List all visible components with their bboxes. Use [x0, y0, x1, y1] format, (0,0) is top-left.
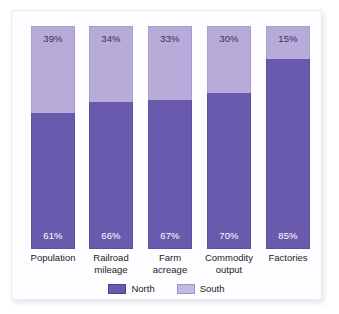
legend-item-north[interactable]: North	[108, 284, 154, 294]
bar-value-south: 33%	[160, 34, 179, 44]
bar-segment-south[interactable]: 15%	[266, 26, 310, 59]
bar-segment-north[interactable]: 70%	[207, 93, 251, 249]
bar-segment-south[interactable]: 30%	[207, 26, 251, 93]
bar-value-south: 15%	[278, 34, 297, 44]
bar-segment-south[interactable]: 39%	[31, 26, 75, 113]
bar-segment-north[interactable]: 61%	[31, 113, 75, 249]
bar-column-railroad-mileage[interactable]: 34% 66%	[89, 26, 133, 249]
legend-swatch-north-icon	[108, 284, 126, 294]
category-label-line1: Population	[23, 252, 83, 264]
legend-item-south[interactable]: South	[177, 284, 225, 294]
category-label-line2: mileage	[81, 264, 141, 276]
bar-value-north: 85%	[278, 231, 297, 241]
legend-swatch-south-icon	[177, 284, 195, 294]
category-label-line1: Railroad	[81, 252, 141, 264]
category-label-population: Population	[23, 252, 83, 264]
category-label-line2: acreage	[140, 264, 200, 276]
bar-value-north: 61%	[43, 231, 62, 241]
legend-label-north: North	[131, 284, 154, 294]
category-label-line1: Farm	[140, 252, 200, 264]
bar-value-south: 34%	[101, 34, 120, 44]
bar-column-population[interactable]: 39% 61%	[31, 26, 75, 249]
category-label-factories: Factories	[258, 252, 318, 264]
bar-segment-north[interactable]: 66%	[89, 102, 133, 249]
bar-value-north: 67%	[160, 231, 179, 241]
category-label-line2: output	[199, 264, 259, 276]
bar-value-south: 30%	[219, 34, 238, 44]
bar-segment-south[interactable]: 34%	[89, 26, 133, 102]
bar-segment-north[interactable]: 85%	[266, 59, 310, 249]
plot-area: 39% 61% 34% 66% 33% 67%	[31, 26, 312, 249]
bar-column-factories[interactable]: 15% 85%	[266, 26, 310, 249]
bar-value-north: 70%	[219, 231, 238, 241]
bar-column-farm-acreage[interactable]: 33% 67%	[148, 26, 192, 249]
category-label-farm-acreage: Farm acreage	[140, 252, 200, 275]
chart-legend: North South	[12, 284, 321, 294]
bar-value-south: 39%	[43, 34, 62, 44]
bar-value-north: 66%	[101, 231, 120, 241]
chart-figure: 39% 61% 34% 66% 33% 67%	[11, 10, 322, 300]
bar-segment-north[interactable]: 67%	[148, 100, 192, 249]
bar-segment-south[interactable]: 33%	[148, 26, 192, 100]
category-label-railroad-mileage: Railroad mileage	[81, 252, 141, 275]
category-label-line1: Commodity	[199, 252, 259, 264]
bar-column-commodity-output[interactable]: 30% 70%	[207, 26, 251, 249]
legend-label-south: South	[200, 284, 225, 294]
category-label-commodity-output: Commodity output	[199, 252, 259, 275]
category-axis-labels: Population Railroad mileage Farm acreage…	[31, 252, 312, 280]
category-label-line1: Factories	[258, 252, 318, 264]
